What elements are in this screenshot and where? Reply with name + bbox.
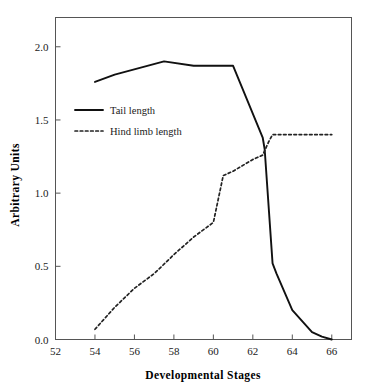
x-axis-title: Developmental Stages xyxy=(145,369,261,382)
legend-label: Tail length xyxy=(110,105,156,116)
y-tick-label: 1.0 xyxy=(35,187,49,199)
y-tick-label: 2.0 xyxy=(35,41,49,53)
x-tick-label: 54 xyxy=(89,345,101,357)
legend-label: Hind limb length xyxy=(110,126,182,137)
x-tick-label: 62 xyxy=(247,345,258,357)
y-tick-label: 0.5 xyxy=(35,260,49,272)
chart-figure: 0.00.51.01.52.0 5254565860626466 Tail le… xyxy=(0,0,369,392)
y-axis-title: Arbitrary Units xyxy=(9,143,22,227)
x-tick-label: 60 xyxy=(208,345,220,357)
x-tick-label: 64 xyxy=(287,345,299,357)
x-tick-label: 52 xyxy=(50,345,61,357)
line-chart: 0.00.51.01.52.0 5254565860626466 Tail le… xyxy=(0,0,369,392)
x-tick-label: 58 xyxy=(168,345,180,357)
x-tick-label: 56 xyxy=(129,345,141,357)
y-tick-label: 1.5 xyxy=(35,114,49,126)
x-tick-label: 66 xyxy=(326,345,338,357)
y-tick-label: 0.0 xyxy=(35,334,49,346)
